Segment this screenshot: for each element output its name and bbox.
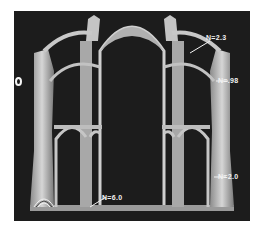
label-n-6-0: N=6.0 xyxy=(102,194,122,202)
label-n-098: N=.98 xyxy=(218,77,238,85)
label-n-2-3: N=2.3 xyxy=(206,34,226,42)
cathedral-model-drawing xyxy=(14,11,250,221)
photoelastic-photo xyxy=(14,11,250,221)
point-o-marker xyxy=(15,77,22,86)
label-n-2-0: N=2.0 xyxy=(218,173,238,181)
